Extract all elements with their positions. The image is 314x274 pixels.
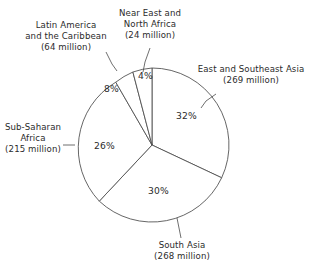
pie-chart: Near East and North Africa (24 million) … bbox=[0, 0, 314, 274]
slice-label-line-1: East and Southeast Asia bbox=[190, 64, 312, 75]
slice-label-line-2: (269 million) bbox=[190, 75, 312, 86]
slice-label-latin-america-and-the-caribbean: Latin America and the Caribbean (64 mill… bbox=[14, 20, 118, 54]
slice-label-sub-saharan-africa: Sub-Saharan Africa (215 million) bbox=[2, 122, 64, 156]
leader-line-south-asia bbox=[177, 218, 181, 238]
leader-line-latin-america-and-the-caribbean bbox=[106, 52, 117, 71]
slice-percent-latin-america-and-the-caribbean: 8% bbox=[104, 83, 119, 94]
slice-label-line-2: and the Caribbean bbox=[14, 31, 118, 42]
slice-label-line-1: South Asia bbox=[130, 240, 234, 251]
slice-label-line-3: (215 million) bbox=[2, 144, 64, 155]
slice-percent-near-east-and-north-africa: 4% bbox=[138, 70, 153, 81]
slice-label-line-2: (268 million) bbox=[130, 251, 234, 262]
slice-label-line-1: Sub-Saharan bbox=[2, 122, 64, 133]
slice-label-line-1: Near East and bbox=[104, 8, 196, 19]
slice-percent-east-and-southeast-asia: 32% bbox=[176, 110, 197, 121]
slice-label-line-3: (64 million) bbox=[14, 42, 118, 53]
slice-percent-sub-saharan-africa: 26% bbox=[94, 140, 115, 151]
slice-label-line-2: Africa bbox=[2, 133, 64, 144]
slice-label-east-and-southeast-asia: East and Southeast Asia (269 million) bbox=[190, 64, 312, 86]
slice-percent-south-asia: 30% bbox=[148, 185, 169, 196]
slice-label-line-1: Latin America bbox=[14, 20, 118, 31]
slice-label-south-asia: South Asia (268 million) bbox=[130, 240, 234, 262]
